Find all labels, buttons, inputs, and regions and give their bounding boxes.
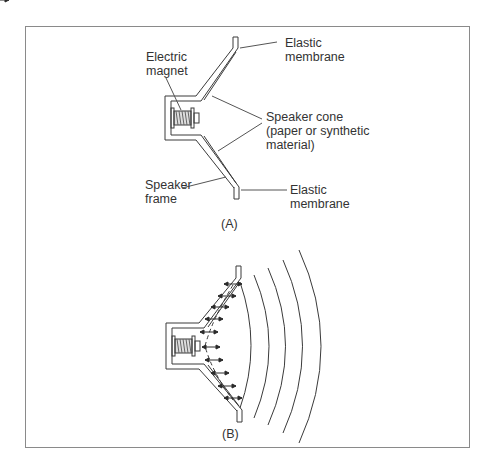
caption-b: (B) xyxy=(222,427,239,441)
label-elastic-membrane-bottom: Elastic membrane xyxy=(290,183,350,211)
label-electric-magnet: Electric magnet xyxy=(146,50,188,78)
caption-a: (A) xyxy=(221,217,238,231)
vibration-arrows xyxy=(0,0,242,400)
label-elastic-membrane-top: Elastic membrane xyxy=(285,36,345,64)
label-speaker-cone: Speaker cone (paper or synthetic materia… xyxy=(266,110,370,152)
speaker-b xyxy=(166,250,321,443)
label-speaker-frame: Speaker frame xyxy=(145,178,192,206)
speaker-diagram xyxy=(0,0,494,465)
